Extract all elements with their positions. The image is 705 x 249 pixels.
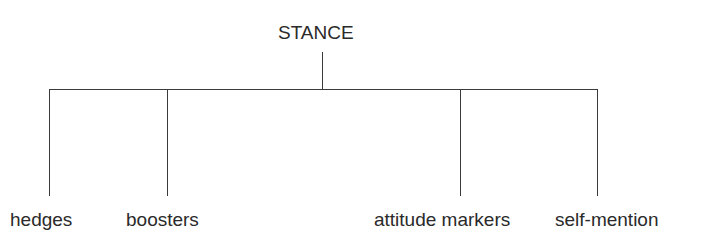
child-line-self-mention (597, 89, 598, 196)
child-label-hedges: hedges (10, 210, 72, 229)
child-line-hedges (49, 89, 50, 196)
root-node-label: STANCE (278, 23, 354, 42)
child-label-boosters: boosters (126, 210, 199, 229)
root-stem-line (322, 52, 323, 89)
child-line-attitude-markers (460, 89, 461, 196)
child-label-attitude-markers: attitude markers (374, 210, 510, 229)
child-label-self-mention: self-mention (555, 210, 659, 229)
horizontal-branch-line (49, 89, 598, 90)
child-line-boosters (167, 89, 168, 196)
